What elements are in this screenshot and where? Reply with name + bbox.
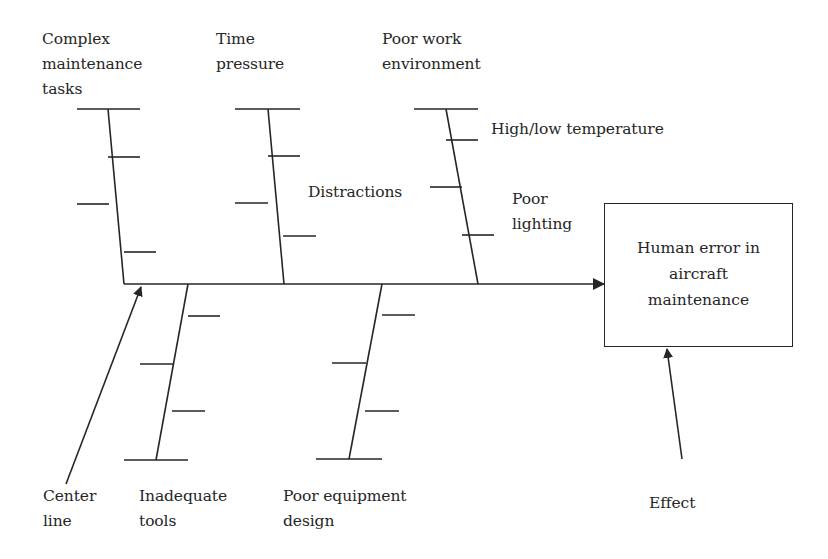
effect-pointer-arrow	[667, 349, 682, 459]
sub-cause-label-poor-lighting: Poor lighting	[512, 187, 572, 237]
bone-poor-equipment-design	[316, 284, 415, 459]
sub-cause-label-high-low-temperature: High/low temperature	[491, 117, 664, 142]
effect-label: Human error in aircraft maintenance	[605, 235, 792, 313]
center-line-pointer-arrow	[66, 287, 141, 484]
cause-label-poor-equipment-design: Poor equipment design	[283, 484, 406, 534]
sub-cause-label-distractions: Distractions	[308, 180, 402, 205]
cause-label-complex-maintenance-tasks: Complex maintenance tasks	[42, 27, 142, 102]
fishbone-diagram: Complex maintenance tasks Time pressure …	[0, 0, 828, 559]
cause-label-time-pressure: Time pressure	[216, 27, 284, 77]
effect-box: Human error in aircraft maintenance	[604, 203, 793, 347]
effect-annotation-label: Effect	[649, 491, 695, 516]
bone-complex-maintenance-tasks	[77, 109, 156, 284]
bone-inadequate-tools	[124, 284, 220, 460]
cause-label-poor-work-environment: Poor work environment	[382, 27, 481, 77]
center-line-annotation-label: Center line	[43, 484, 96, 534]
cause-label-inadequate-tools: Inadequate tools	[139, 484, 227, 534]
bone-poor-work-environment	[414, 109, 494, 284]
bone-time-pressure	[235, 109, 316, 284]
